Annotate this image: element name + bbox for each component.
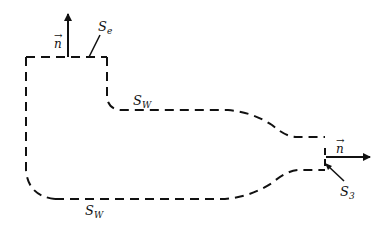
boundary-lower-wall	[55, 170, 325, 199]
se-leader-line	[89, 35, 100, 57]
vector-mark-right: →	[336, 135, 345, 146]
vector-mark-top: →	[54, 30, 63, 41]
boundary-left-wall	[26, 57, 55, 199]
control-volume-diagram: n → Se SW SW n → S3	[0, 0, 387, 225]
label-sw-bottom: SW	[85, 203, 104, 220]
label-sw-top: SW	[133, 93, 152, 110]
label-se: Se	[98, 19, 112, 36]
label-s3: S3	[340, 184, 355, 201]
